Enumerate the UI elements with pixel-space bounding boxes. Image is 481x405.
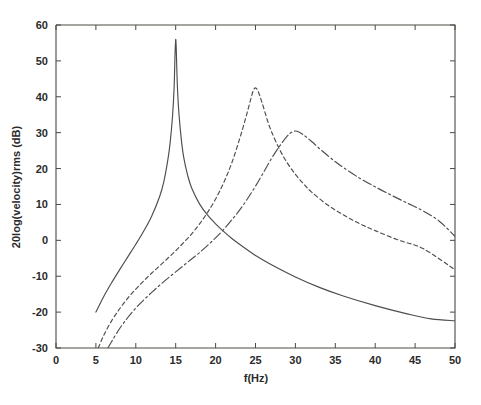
- y-tick-label: -30: [32, 342, 48, 354]
- x-tick-label: 30: [289, 354, 301, 366]
- y-tick-label: 0: [42, 234, 48, 246]
- y-tick-label: 50: [36, 55, 48, 67]
- chart-background: [0, 0, 481, 405]
- y-tick-label: 20: [36, 163, 48, 175]
- x-tick-label: 25: [249, 354, 261, 366]
- x-tick-label: 10: [130, 354, 142, 366]
- x-tick-label: 15: [170, 354, 182, 366]
- x-tick-label: 50: [449, 354, 461, 366]
- figure-container: 05101520253035404550 -30-20-100102030405…: [0, 0, 481, 405]
- x-tick-label: 20: [209, 354, 221, 366]
- x-tick-label: 5: [93, 354, 99, 366]
- x-tick-label: 45: [409, 354, 421, 366]
- y-tick-label: 60: [36, 19, 48, 31]
- y-axis-title: 20log(velocity)rms (dB): [10, 126, 22, 249]
- y-tick-label: 40: [36, 91, 48, 103]
- y-tick-label: -20: [32, 306, 48, 318]
- y-tick-label: 30: [36, 127, 48, 139]
- x-tick-label: 35: [329, 354, 341, 366]
- x-axis-title: f(Hz): [244, 372, 269, 384]
- x-tick-label: 0: [53, 354, 59, 366]
- x-tick-label: 40: [369, 354, 381, 366]
- y-tick-label: 10: [36, 198, 48, 210]
- y-tick-label: -10: [32, 270, 48, 282]
- resonance-frequency-response-chart: 05101520253035404550 -30-20-100102030405…: [0, 0, 481, 405]
